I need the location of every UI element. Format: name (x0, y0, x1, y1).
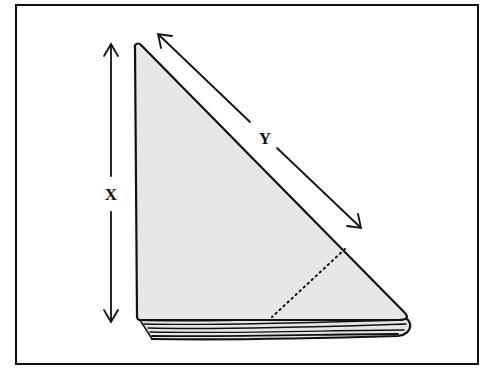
dimension-arrow-x (104, 44, 118, 322)
napkin-fold-diagram: X Y (0, 0, 486, 372)
label-x: X (105, 185, 118, 204)
label-y: Y (259, 129, 271, 148)
napkin-triangle (135, 44, 407, 320)
